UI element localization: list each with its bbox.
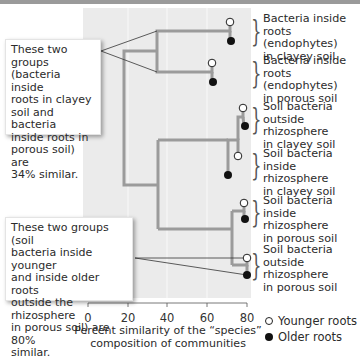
brace-icon: }: [251, 197, 262, 227]
label-line: in porous soil: [263, 282, 360, 295]
legend-older-label: Older roots: [278, 330, 342, 344]
open-circle-icon: [265, 317, 273, 325]
callout-line: soil and bacteria: [11, 107, 95, 132]
legend-younger-label: Younger roots: [278, 314, 357, 328]
callout-line: roots in clayey: [11, 94, 95, 107]
younger-root-marker: [208, 59, 216, 67]
x-tick-40: 40: [160, 311, 175, 325]
callout-line: These two groups (soil: [11, 222, 127, 247]
brace-icon: }: [251, 150, 262, 180]
label-line: Soil bacteria: [263, 195, 360, 208]
older-root-marker: [243, 271, 251, 279]
x-axis-label-line1: Percent similarity of the “species”: [70, 325, 266, 338]
younger-root-marker: [243, 254, 251, 262]
older-root-marker: [224, 171, 232, 179]
younger-root-marker: [239, 104, 247, 112]
younger-root-marker: [234, 152, 242, 160]
callout-line: 34% similar.: [11, 169, 95, 182]
callout-line: porous soil) are: [11, 144, 95, 169]
brace-icon: }: [251, 16, 262, 46]
legend-younger: Younger roots: [265, 314, 357, 328]
dendrogram-branches: [124, 22, 247, 275]
older-root-marker: [241, 122, 249, 130]
label-line: roots (endophytes): [263, 26, 360, 51]
group-label-inside-rhizosphere-porous: Soil bacteria inside rhizosphere in poro…: [263, 195, 360, 245]
callout-line: and inside older roots: [11, 272, 127, 297]
x-tick-20: 20: [121, 311, 136, 325]
label-line: outside rhizosphere: [263, 257, 360, 282]
filled-circle-icon: [265, 333, 273, 341]
callout-line: outside the rhizosphere: [11, 297, 127, 322]
callout-line: These two groups: [11, 44, 95, 69]
label-line: Soil bacteria: [263, 148, 360, 161]
older-root-marker: [209, 78, 217, 86]
brace-icon: }: [251, 58, 262, 88]
x-tick-0: 0: [84, 311, 91, 325]
callout-top: These two groups (bacteria inside roots …: [5, 39, 101, 135]
group-label-endophytes-porous: Bacteria inside roots (endophytes) in po…: [263, 55, 360, 105]
x-axis-label: Percent similarity of the “species” comp…: [70, 325, 266, 350]
older-root-marker: [241, 215, 249, 223]
label-line: outside rhizosphere: [263, 114, 360, 139]
label-line: Soil bacteria: [263, 101, 360, 114]
brace-icon: }: [251, 250, 262, 280]
x-tick-60: 60: [200, 311, 215, 325]
older-root-marker: [227, 37, 235, 45]
callout-bottom: These two groups (soil bacteria inside y…: [5, 217, 133, 301]
group-label-outside-rhizosphere-porous: Soil bacteria outside rhizosphere in por…: [263, 244, 360, 294]
label-line: Bacteria inside: [263, 55, 360, 68]
label-line: inside rhizosphere: [263, 161, 360, 186]
x-tick-80: 80: [240, 311, 255, 325]
legend-older: Older roots: [265, 330, 342, 344]
brace-icon: }: [251, 104, 262, 134]
younger-root-marker: [240, 199, 248, 207]
callout-line: bacteria inside younger: [11, 247, 127, 272]
label-line: inside rhizosphere: [263, 208, 360, 233]
younger-root-marker: [226, 18, 234, 26]
label-line: Bacteria inside: [263, 13, 360, 26]
leaf-markers: [208, 18, 251, 279]
label-line: roots (endophytes): [263, 68, 360, 93]
callout-line: (bacteria inside: [11, 69, 95, 94]
x-axis-label-line2: composition of communities: [70, 338, 266, 351]
group-label-inside-rhizosphere-clayey: Soil bacteria inside rhizosphere in clay…: [263, 148, 360, 198]
label-line: Soil bacteria: [263, 244, 360, 257]
group-label-outside-rhizosphere-clayey: Soil bacteria outside rhizosphere in cla…: [263, 101, 360, 151]
